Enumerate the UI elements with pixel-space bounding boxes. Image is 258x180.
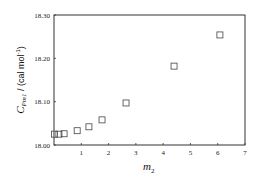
x-tick-label: 3 — [134, 149, 138, 157]
data-point — [123, 100, 129, 106]
y-tick-label: 18.10 — [34, 98, 50, 106]
y-axis-label: CPm1 / (cal mol-1) — [14, 46, 28, 114]
data-point — [52, 131, 58, 137]
y-tick-label: 18.20 — [34, 55, 50, 63]
x-tick-label: 5 — [189, 149, 193, 157]
data-point — [99, 117, 105, 123]
scatter-chart: 1234567 18.0018.1018.2018.30 m2 CPm1 / (… — [0, 0, 258, 180]
x-axis-label-subscript: 2 — [151, 167, 155, 175]
y-tick-label: 18.00 — [34, 142, 50, 150]
plot-frame — [54, 15, 245, 145]
data-point — [217, 32, 223, 38]
data-points — [52, 32, 223, 137]
y-axis-label-subscript: Pm1 — [20, 94, 28, 108]
y-tick-label: 18.30 — [34, 12, 50, 20]
x-tick-label: 6 — [216, 149, 220, 157]
data-point — [86, 124, 92, 130]
y-axis-ticks: 18.0018.1018.2018.30 — [34, 12, 56, 150]
data-point — [74, 128, 80, 134]
x-tick-label: 1 — [80, 149, 84, 157]
data-point — [171, 63, 177, 69]
x-axis-label: m2 — [143, 160, 155, 175]
x-tick-label: 7 — [243, 149, 247, 157]
x-tick-label: 4 — [161, 149, 165, 157]
x-tick-label: 2 — [107, 149, 111, 157]
